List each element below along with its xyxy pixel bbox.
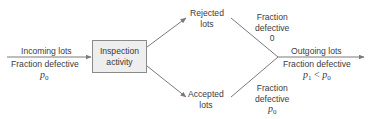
accepted-line1: Accepted [188,89,224,100]
rejected-fraction-value: 0 [255,33,289,44]
rejected-lots-label: Rejected lots [190,8,224,29]
incoming-lots-label: Incoming lots [21,46,72,57]
rejected-fraction-label: Fraction defective 0 [255,12,289,44]
outgoing-fraction-value: p1 < p0 [303,70,331,84]
rejected-line1: Rejected [190,8,224,19]
rejected-fraction-line2: defective [255,23,289,34]
p-subscript: 0 [45,74,49,82]
inspection-line2: activity [100,57,139,68]
outgoing-lots-label: Outgoing lots [291,46,342,57]
accepted-line2: lots [188,100,224,111]
inspection-activity-box: Inspection activity [92,40,147,73]
accepted-fraction-line1: Fraction [255,83,289,94]
p0-subscript: 0 [327,74,331,82]
incoming-fraction-label: Fraction defective [11,59,79,70]
accepted-lots-label: Accepted lots [188,89,224,110]
accepted-arrow [147,66,186,97]
outgoing-fraction-label: Fraction defective [283,59,351,70]
inspection-line1: Inspection [100,46,139,57]
rejected-arrow [147,18,186,47]
p-subscript: 0 [273,108,277,116]
less-than-operator: < [312,69,323,80]
accepted-fraction-label: Fraction defective p0 [255,83,289,118]
rejected-fraction-line1: Fraction [255,12,289,23]
incoming-fraction-value: p0 [40,70,49,84]
rejected-line2: lots [190,19,224,30]
accepted-fraction-value: p0 [255,104,289,118]
